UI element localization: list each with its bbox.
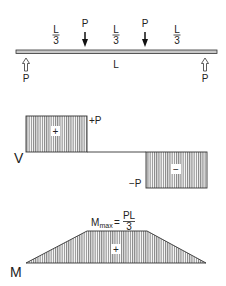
shear-axis-label: V	[14, 150, 24, 166]
segment-label-1: L 3	[53, 24, 60, 46]
load-right: P	[142, 18, 149, 47]
shear-negative-sign: −	[173, 164, 179, 175]
svg-text:L: L	[113, 24, 119, 35]
svg-text:3: 3	[174, 35, 180, 46]
beam	[16, 50, 217, 54]
moment-axis-label: M	[10, 264, 22, 280]
reaction-right: P	[202, 58, 209, 84]
segment-label-3: L 3	[174, 24, 181, 46]
loaded-beam: L 3 L 3 L 3 P P L P	[16, 18, 217, 84]
svg-text:M: M	[91, 217, 99, 228]
svg-text:P: P	[142, 18, 149, 29]
moment-diagram: + M max = PL 3 M	[10, 210, 206, 280]
arrow-up-hollow-icon	[23, 58, 30, 71]
arrow-up-hollow-icon	[202, 58, 209, 71]
svg-text:L: L	[174, 24, 180, 35]
svg-text:PL: PL	[123, 210, 136, 221]
beam-diagram: L 3 L 3 L 3 P P L P	[0, 0, 226, 286]
segment-label-2: L 3	[113, 24, 120, 46]
svg-text:P: P	[202, 73, 209, 84]
svg-text:P: P	[23, 73, 30, 84]
svg-text:3: 3	[126, 221, 132, 232]
span-label: L	[113, 59, 119, 70]
svg-text:P: P	[82, 18, 89, 29]
svg-text:3: 3	[113, 35, 119, 46]
shear-positive-value: +P	[89, 115, 102, 126]
svg-text:=: =	[114, 217, 120, 228]
moment-sign: +	[113, 244, 119, 255]
svg-text:L: L	[53, 24, 59, 35]
shear-positive-sign: +	[53, 126, 59, 137]
moment-max-label: M max = PL 3	[91, 210, 136, 232]
svg-text:max: max	[100, 222, 114, 229]
reaction-left: P	[23, 58, 30, 84]
shear-diagram: + − +P −P V	[14, 115, 207, 189]
load-left: P	[82, 18, 89, 47]
shear-negative-value: −P	[129, 178, 142, 189]
svg-text:3: 3	[53, 35, 59, 46]
